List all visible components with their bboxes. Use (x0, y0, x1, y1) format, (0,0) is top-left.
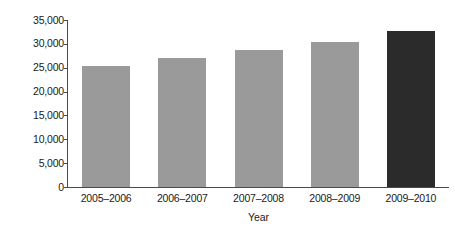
bar[interactable] (311, 42, 359, 187)
x-axis-tick-label: 2006–2007 (139, 191, 225, 205)
bar-chart-figure: Recurrent expenditure (A$ million) 05,00… (0, 0, 455, 233)
plot-area (68, 20, 449, 187)
y-axis-tick-label: 0 (26, 182, 64, 193)
y-axis-tick-label: 25,000 (26, 62, 64, 73)
bar[interactable] (158, 58, 206, 187)
bar[interactable] (387, 31, 435, 188)
y-axis-tick-label: 35,000 (26, 15, 64, 26)
y-axis-tick-label: 5,000 (26, 158, 64, 169)
x-axis-tick-label: 2007–2008 (216, 191, 302, 205)
y-axis-tick-label: 10,000 (26, 134, 64, 145)
y-axis-tick-labels: 05,00010,00015,00020,00025,00030,00035,0… (26, 0, 64, 233)
y-axis-tick-label: 15,000 (26, 110, 64, 121)
bar[interactable] (235, 50, 283, 187)
x-axis-tick-labels: 2005–20062006–20072007–20082008–20092009… (68, 191, 449, 207)
bar[interactable] (82, 66, 130, 187)
y-axis-tick-label: 30,000 (26, 38, 64, 49)
y-axis-tick-label: 20,000 (26, 86, 64, 97)
x-axis-tick-label: 2008–2009 (292, 191, 378, 205)
x-axis-tick-label: 2005–2006 (63, 191, 149, 205)
x-axis-tick-label: 2009–2010 (368, 191, 454, 205)
x-axis-line (67, 187, 449, 188)
x-axis-title: Year (68, 210, 449, 224)
